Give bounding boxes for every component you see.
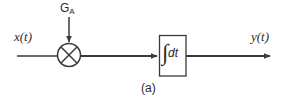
output-signal-label: y(t) [251, 30, 269, 43]
gain-subscript: A [69, 7, 74, 16]
gain-symbol: G [60, 1, 69, 15]
gain-label: GA [60, 2, 75, 14]
figure-caption: (a) [141, 82, 156, 94]
input-signal-label: x(t) [14, 30, 32, 43]
integrator-integrand-label: dt [168, 47, 178, 59]
block-diagram-figure: x(t) GA ∫ dt y(t) (a) [0, 0, 291, 102]
